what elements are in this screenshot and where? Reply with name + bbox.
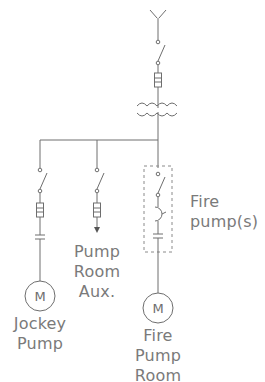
fire-pump-room-label: Fire Pump Room [123, 326, 193, 382]
transformer-icon [137, 103, 177, 140]
jockey-branch: M [25, 140, 55, 311]
aux-branch [94, 140, 105, 233]
utility-service-icon [150, 10, 166, 40]
fire-branch: M [143, 140, 173, 323]
main-fuse-icon [155, 73, 162, 104]
pump-room-aux-label: Pump Room Aux. [62, 242, 132, 302]
fire-pumps-label: Fire pump(s) [190, 192, 258, 232]
main-switch-icon [156, 40, 165, 73]
svg-text:M: M [152, 301, 163, 316]
svg-text:M: M [34, 289, 45, 304]
fire-breaker-icon [155, 207, 162, 221]
aux-arrow-icon [94, 227, 100, 233]
jockey-pump-label: Jockey Pump [5, 314, 75, 354]
